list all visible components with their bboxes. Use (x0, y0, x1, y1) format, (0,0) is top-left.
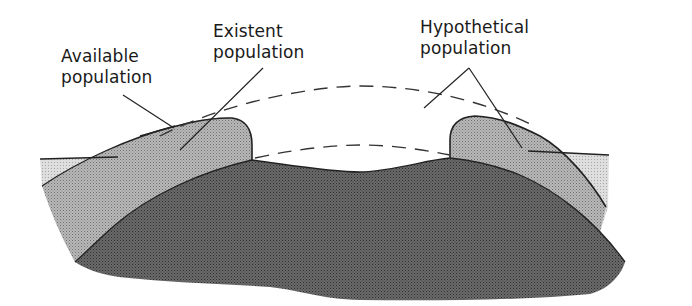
existent-label-line2: population (213, 42, 304, 63)
hypothetical-label-line2: population (420, 38, 529, 59)
hypothetical-leader-line-left (424, 68, 469, 108)
existent-population-label: Existent population (213, 21, 304, 63)
available-label-line2: population (61, 67, 152, 88)
population-diagram: Available population Existent population… (0, 0, 692, 306)
hypothetical-population-label: Hypothetical population (420, 17, 529, 59)
available-label-line1: Available (61, 46, 152, 67)
existent-label-line1: Existent (213, 21, 304, 42)
available-leader-line (123, 95, 174, 128)
lower-dashed-arc (255, 145, 450, 158)
available-population-label: Available population (61, 46, 152, 88)
hypothetical-label-line1: Hypothetical (420, 17, 529, 38)
